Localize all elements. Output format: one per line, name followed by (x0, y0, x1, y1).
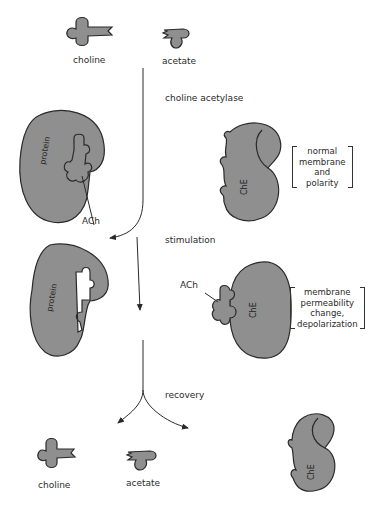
ach-label-1: ACh (82, 216, 100, 227)
note-normal: normal membrane and polarity (292, 146, 353, 188)
acetate-label-bottom: acetate (126, 478, 160, 489)
acetate-label-top: acetate (162, 56, 196, 67)
ach-label-2: ACh (180, 280, 198, 291)
che-label-1: ChE (240, 179, 249, 195)
che-label-2: ChE (249, 302, 258, 318)
choline-molecule-top (67, 18, 112, 46)
diagram-svg: protein protein ChE ChE ChE (0, 0, 371, 505)
protein-empty (30, 244, 108, 356)
choline-label-bottom: choline (38, 480, 70, 491)
choline-label-top: choline (73, 55, 105, 66)
acetate-molecule-top (163, 29, 189, 48)
step-label-stimulation: stimulation (165, 235, 215, 246)
diagram-canvas: protein protein ChE ChE ChE choline acet… (0, 0, 371, 505)
protein-with-ach (20, 110, 105, 225)
arrow-recovery-left (118, 340, 143, 423)
step-label-synthesis: choline acetylase (165, 93, 243, 104)
che-label-3: ChE (307, 464, 316, 480)
step-label-recovery: recovery (165, 390, 204, 401)
note-depolarization: membrane permeability change, depolariza… (290, 287, 365, 329)
acetate-molecule-bottom (127, 451, 156, 470)
che-enzyme-normal (220, 123, 280, 221)
arrow-synthesis (110, 68, 143, 238)
choline-molecule-bottom (38, 439, 75, 468)
arrow-stimulation (137, 237, 140, 310)
